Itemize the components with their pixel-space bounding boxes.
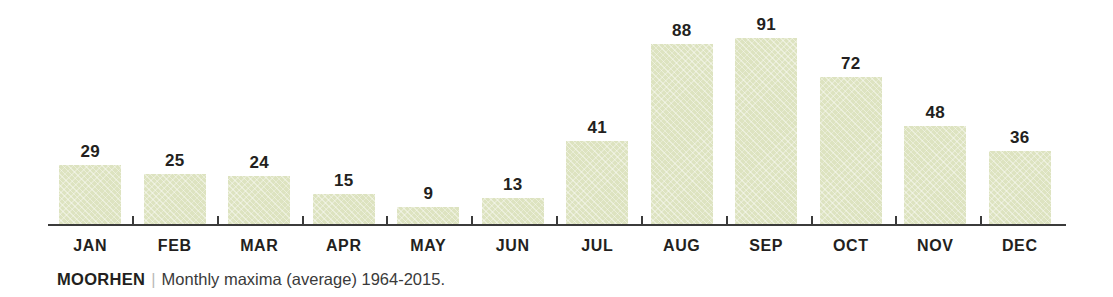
bar-slot-jan: 29 [48,8,133,225]
bar-slot-nov: 48 [893,8,978,225]
x-axis-tick [556,216,558,224]
x-axis-tick [726,216,728,224]
x-axis-tick [811,216,813,224]
bar-value-mar: 24 [250,154,269,171]
category-label-nov: NOV [893,234,978,258]
bar-value-oct: 72 [841,55,860,72]
bar-value-nov: 48 [926,104,945,121]
bar-slot-sep: 91 [724,8,809,225]
category-label-dec: DEC [978,234,1063,258]
plot-area: 29 25 24 15 9 [48,8,1066,225]
x-axis-tick [641,216,643,224]
category-label-mar: MAR [217,234,302,258]
category-label-jun: JUN [471,234,556,258]
bar-slot-jun: 13 [471,8,556,225]
category-label-may: MAY [386,234,471,258]
bar-aug[interactable]: 88 [651,44,713,225]
bar-dec[interactable]: 36 [989,151,1051,225]
bar-series: 29 25 24 15 9 [48,8,1066,225]
bar-value-feb: 25 [165,152,184,169]
x-axis-tick [217,216,219,224]
x-axis-tick [132,216,134,224]
bar-slot-aug: 88 [640,8,725,225]
bar-nov[interactable]: 48 [904,126,966,225]
bar-slot-mar: 24 [217,8,302,225]
bar-slot-may: 9 [386,8,471,225]
x-axis-line [48,224,1066,226]
bar-value-jan: 29 [81,143,100,160]
x-axis-tick [386,216,388,224]
x-axis-category-labels: JAN FEB MAR APR MAY JUN JUL AUG SEP OCT … [48,234,1066,258]
category-label-sep: SEP [724,234,809,258]
bar-chart: 29 25 24 15 9 [0,0,1113,297]
bar-value-may: 9 [423,185,433,202]
x-axis-tick [302,216,304,224]
x-axis-ticks [48,216,1066,224]
caption-description: Monthly maxima (average) 1964-2015. [162,270,445,288]
bar-slot-jul: 41 [555,8,640,225]
bar-slot-oct: 72 [809,8,894,225]
bar-value-apr: 15 [334,172,353,189]
category-label-feb: FEB [133,234,218,258]
bar-slot-dec: 36 [978,8,1063,225]
caption-separator: | [145,270,161,288]
bar-sep[interactable]: 91 [735,38,797,225]
category-label-jan: JAN [48,234,133,258]
chart-caption: MOORHEN|Monthly maxima (average) 1964-20… [57,268,445,290]
bar-value-jun: 13 [503,176,522,193]
bar-value-aug: 88 [672,22,691,39]
bar-value-dec: 36 [1010,129,1029,146]
bar-slot-apr: 15 [302,8,387,225]
x-axis-tick [471,216,473,224]
x-axis-tick [895,216,897,224]
bar-oct[interactable]: 72 [820,77,882,225]
caption-species-name: MOORHEN [57,270,145,288]
bar-value-sep: 91 [757,16,776,33]
x-axis-tick [980,216,982,224]
category-label-aug: AUG [640,234,725,258]
category-label-oct: OCT [809,234,894,258]
category-label-apr: APR [302,234,387,258]
bar-value-jul: 41 [588,119,607,136]
category-label-jul: JUL [555,234,640,258]
bar-jul[interactable]: 41 [566,141,628,225]
bar-slot-feb: 25 [133,8,218,225]
